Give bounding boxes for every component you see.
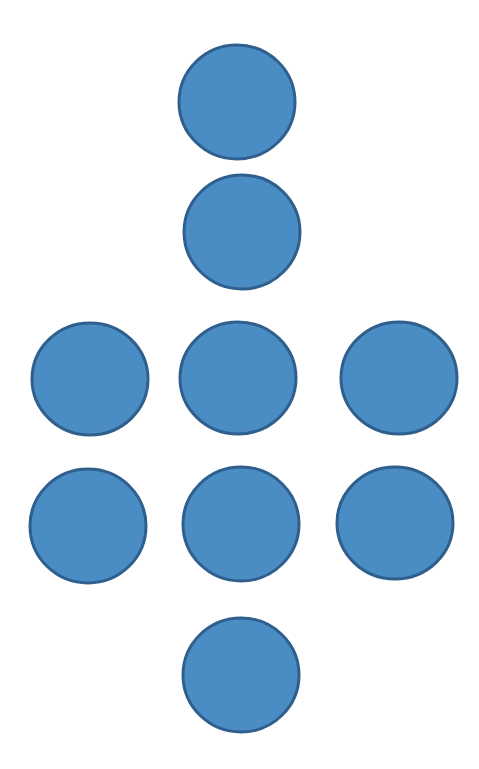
circle-8 <box>337 467 453 579</box>
circle-3 <box>32 323 148 435</box>
circle-2 <box>184 175 300 289</box>
circles-group <box>30 45 457 732</box>
circle-4 <box>180 322 296 434</box>
circle-7 <box>183 467 299 581</box>
circle-6 <box>30 469 146 583</box>
circle-5 <box>341 322 457 434</box>
circle-arrangement-diagram <box>0 0 479 769</box>
circle-1 <box>179 45 295 159</box>
circle-9 <box>183 618 299 732</box>
